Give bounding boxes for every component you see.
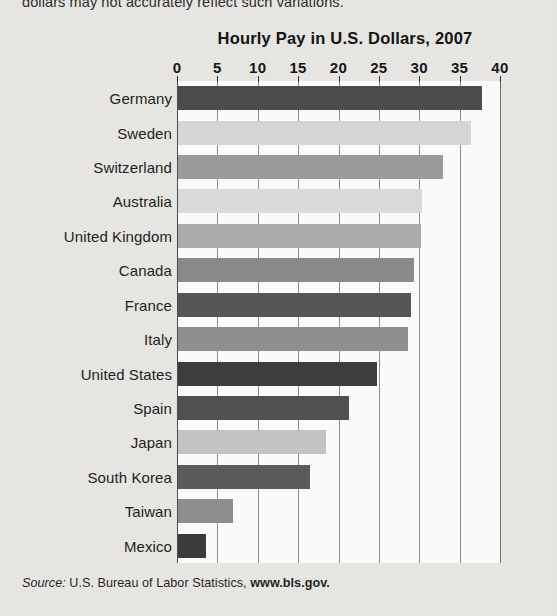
bar-mexico	[178, 534, 206, 558]
category-label-sweden: Sweden	[117, 124, 172, 141]
x-axis-tick-10: 10	[249, 59, 266, 76]
caption-cutoff-text: dollars may not accurately reflect such …	[22, 0, 442, 11]
bar-rows: GermanySwedenSwitzerlandAustraliaUnited …	[0, 81, 557, 563]
bar-row: Japan	[0, 425, 557, 459]
x-axis-tick-5: 5	[213, 59, 222, 76]
category-label-japan: Japan	[131, 434, 172, 451]
chart-title: Hourly Pay in U.S. Dollars, 2007	[180, 29, 510, 48]
bar-row: Taiwan	[0, 494, 557, 528]
bar-row: United States	[0, 356, 557, 390]
bar-row: Spain	[0, 391, 557, 425]
category-label-australia: Australia	[113, 193, 172, 210]
category-label-germany: Germany	[110, 90, 172, 107]
category-label-switzerland: Switzerland	[93, 159, 172, 176]
source-note: Source: U.S. Bureau of Labor Statistics,…	[22, 576, 330, 590]
source-label: Source:	[22, 576, 66, 590]
bar-united-states	[178, 362, 377, 386]
category-label-taiwan: Taiwan	[125, 503, 172, 520]
bar-row: Germany	[0, 81, 557, 115]
chart-page: dollars may not accurately reflect such …	[0, 0, 557, 616]
category-label-canada: Canada	[119, 262, 172, 279]
bar-row: France	[0, 288, 557, 322]
bar-row: Canada	[0, 253, 557, 287]
bar-australia	[178, 189, 422, 213]
bar-row: Switzerland	[0, 150, 557, 184]
category-label-france: France	[125, 296, 172, 313]
bar-spain	[178, 396, 349, 420]
bar-south-korea	[178, 465, 310, 489]
x-axis-tick-15: 15	[289, 59, 306, 76]
x-axis-tick-25: 25	[370, 59, 387, 76]
bar-switzerland	[178, 155, 443, 179]
x-axis-tick-20: 20	[330, 59, 347, 76]
x-axis-tick-30: 30	[411, 59, 428, 76]
x-axis-tick-35: 35	[451, 59, 468, 76]
bar-france	[178, 293, 411, 317]
bar-united-kingdom	[178, 224, 421, 248]
bar-row: Italy	[0, 322, 557, 356]
source-url: www.bls.gov.	[250, 576, 330, 590]
bar-sweden	[178, 121, 471, 145]
category-label-italy: Italy	[144, 331, 172, 348]
category-label-south-korea: South Korea	[88, 468, 173, 485]
category-label-spain: Spain	[133, 400, 172, 417]
source-agency: U.S. Bureau of Labor Statistics,	[69, 576, 246, 590]
bar-canada	[178, 258, 414, 282]
category-label-united-states: United States	[81, 365, 172, 382]
bar-taiwan	[178, 499, 233, 523]
category-label-mexico: Mexico	[124, 537, 172, 554]
bar-row: Mexico	[0, 529, 557, 563]
x-axis-tick-labels: 0510152025303540	[0, 59, 557, 79]
category-label-united-kingdom: United Kingdom	[64, 227, 172, 244]
bar-germany	[178, 86, 482, 110]
bar-japan	[178, 430, 326, 454]
bar-row: South Korea	[0, 460, 557, 494]
bar-italy	[178, 327, 408, 351]
x-axis-tick-40: 40	[491, 59, 508, 76]
bar-row: Sweden	[0, 115, 557, 149]
x-axis-tick-0: 0	[173, 59, 182, 76]
bar-row: Australia	[0, 184, 557, 218]
bar-row: United Kingdom	[0, 219, 557, 253]
